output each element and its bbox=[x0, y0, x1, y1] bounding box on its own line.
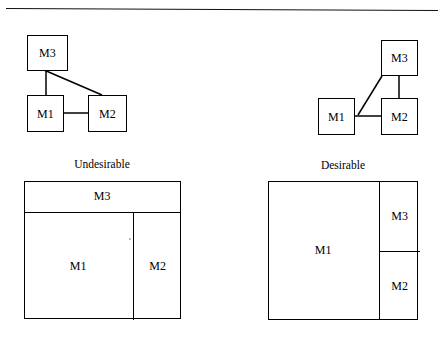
region-label: M3 bbox=[94, 190, 111, 202]
figure-canvas: M3 M1 M2 M3 M1 M2 Undesirable M3 M1 bbox=[0, 0, 442, 347]
left-layout-region-m1: M1 bbox=[24, 213, 134, 320]
left-layout-region-m2: M2 bbox=[134, 213, 182, 320]
node-label: M3 bbox=[391, 52, 408, 64]
node-label: M1 bbox=[328, 111, 345, 123]
edge-m3-m1 bbox=[358, 76, 382, 115]
right-graph-node-m1: M1 bbox=[318, 98, 355, 135]
left-layout-outer-box: M3 M1 M2 bbox=[24, 181, 181, 319]
right-graph-node-m3: M3 bbox=[381, 40, 418, 76]
right-layout-region-m1: M1 bbox=[268, 181, 380, 320]
right-layout-caption: Desirable bbox=[268, 159, 418, 171]
region-label: M1 bbox=[315, 244, 332, 256]
right-layout-region-m3: M3 bbox=[380, 181, 420, 252]
right-layout-outer-box: M1 M3 M2 bbox=[268, 181, 418, 320]
region-label: M3 bbox=[391, 210, 408, 222]
region-label: M1 bbox=[70, 260, 87, 272]
region-label: M2 bbox=[391, 280, 408, 292]
left-layout-caption: Undesirable bbox=[24, 158, 180, 170]
node-label: M2 bbox=[391, 111, 408, 123]
right-graph-node-m2: M2 bbox=[381, 98, 418, 135]
region-label: M2 bbox=[149, 260, 166, 272]
right-layout-region-m2: M2 bbox=[380, 252, 420, 320]
left-layout-region-m3: M3 bbox=[24, 181, 181, 213]
scan-speck bbox=[129, 238, 131, 240]
